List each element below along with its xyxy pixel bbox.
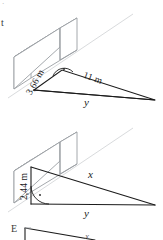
right-angle-dot-figure-1 — [63, 68, 65, 70]
triangle-figure-2 — [31, 167, 155, 205]
angle-marker-figure-2 — [31, 186, 49, 204]
label-hypotenuse-figure-2: x — [88, 169, 93, 180]
margin-item-letter: t — [1, 18, 4, 28]
triangle-base-figure-1 — [34, 90, 155, 100]
figure-2-group — [8, 128, 155, 212]
label-base-figure-1: y — [84, 97, 89, 108]
label-hypotenuse-figure-3: x — [85, 232, 89, 240]
label-height-figure-2: 2,44 m — [20, 173, 30, 200]
margin-top-mark: · — [2, 1, 4, 8]
figure-sheet-page: .guide { stroke:#d9dbdd; stroke-width:1;… — [0, 0, 163, 240]
right-angle-dot-figure-2 — [39, 194, 41, 196]
wall-slab-figure-1 — [14, 18, 77, 89]
label-item-letter-figure-3: E — [11, 224, 17, 234]
triangle-base-figure-2 — [31, 204, 155, 205]
label-base-figure-2: y — [84, 208, 89, 219]
triangle-hypotenuse-figure-2 — [31, 167, 155, 205]
figures-canvas: .guide { stroke:#d9dbdd; stroke-width:1;… — [0, 0, 163, 240]
